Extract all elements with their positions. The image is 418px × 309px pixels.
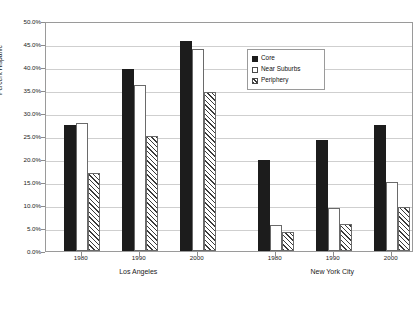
bar-core-new-york-city-1980 [258, 160, 270, 251]
legend-label-near-suburbs: Near Suburbs [261, 66, 300, 72]
bar-periphery-new-york-city-1990 [340, 224, 352, 251]
bar-periphery-los-angeles-1990 [146, 136, 158, 251]
y-axis-tick-label: 10.0% [0, 203, 45, 209]
y-axis-tick-label: 50.0% [0, 19, 45, 25]
x-axis-tick-mark [197, 252, 198, 256]
y-axis-tick-label: 0.0% [0, 249, 45, 255]
x-axis-tick-mark [391, 252, 392, 256]
y-axis-tick-label: 15.0% [0, 180, 45, 186]
legend-item-core: Core [252, 53, 320, 64]
x-axis-tick-mark [81, 252, 82, 256]
bar-core-new-york-city-2000 [374, 125, 386, 251]
y-axis-tick-label: 5.0% [0, 226, 45, 232]
y-axis-tick-label: 30.0% [0, 111, 45, 117]
bar-core-new-york-city-1990 [316, 140, 328, 251]
bar-near-suburbs-los-angeles-2000 [192, 49, 204, 251]
gridline [46, 184, 412, 185]
gridline [46, 92, 412, 93]
legend-item-near-suburbs: Near Suburbs [252, 64, 320, 75]
bar-near-suburbs-new-york-city-1990 [328, 208, 340, 251]
chart-legend: Core Near Suburbs Periphery [247, 49, 325, 90]
y-axis-tick-label: 40.0% [0, 65, 45, 71]
bar-core-los-angeles-1980 [64, 125, 76, 252]
gridline [46, 69, 412, 70]
plot-area [45, 22, 413, 252]
y-axis-tick-label: 25.0% [0, 134, 45, 140]
bar-near-suburbs-los-angeles-1980 [76, 123, 88, 251]
bar-core-los-angeles-1990 [122, 69, 134, 251]
legend-swatch-core-icon [252, 56, 258, 62]
gridline [46, 161, 412, 162]
gridline [46, 138, 412, 139]
bar-periphery-los-angeles-2000 [204, 92, 216, 251]
legend-swatch-periphery-icon [252, 78, 258, 84]
x-axis-group-label: Los Angeles [88, 268, 188, 275]
legend-swatch-near-suburbs-icon [252, 67, 258, 73]
x-axis-tick-mark [139, 252, 140, 256]
bar-near-suburbs-new-york-city-2000 [386, 182, 398, 251]
chart-container: Percent Hispanic 50.0%45.0%40.0%35.0%30.… [0, 0, 418, 309]
gridline [46, 230, 412, 231]
legend-item-periphery: Periphery [252, 75, 320, 86]
bar-near-suburbs-los-angeles-1990 [134, 85, 146, 251]
bar-core-los-angeles-2000 [180, 41, 192, 251]
x-axis-tick-mark [333, 252, 334, 256]
x-axis-group-label: New York City [282, 268, 382, 275]
y-axis-tick-label: 45.0% [0, 42, 45, 48]
gridline [46, 207, 412, 208]
bar-near-suburbs-new-york-city-1980 [270, 225, 282, 251]
bar-periphery-new-york-city-2000 [398, 207, 410, 251]
gridline [46, 115, 412, 116]
y-axis-tick-mark [41, 252, 45, 253]
legend-label-core: Core [261, 55, 275, 61]
y-axis-tick-label: 35.0% [0, 88, 45, 94]
gridline [46, 46, 412, 47]
y-axis-tick-label: 20.0% [0, 157, 45, 163]
bar-periphery-new-york-city-1980 [282, 232, 294, 251]
bar-periphery-los-angeles-1980 [88, 173, 100, 251]
x-axis-tick-mark [275, 252, 276, 256]
legend-label-periphery: Periphery [261, 77, 288, 83]
